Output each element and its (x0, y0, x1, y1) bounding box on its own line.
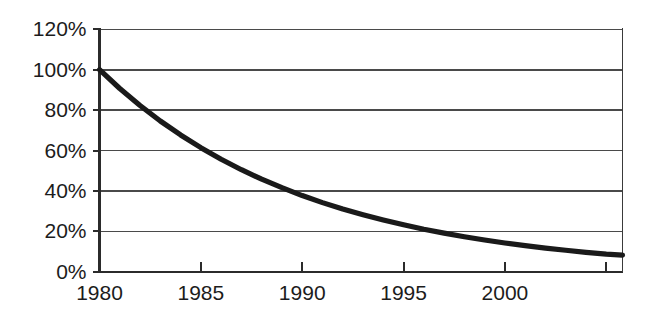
y-axis-tick-label: 0% (56, 260, 86, 283)
x-axis-tick-label: 1995 (380, 281, 427, 304)
y-axis-tick-label: 120% (33, 17, 87, 40)
y-axis-tick-labels: 0%20%40%60%80%100%120% (33, 17, 87, 282)
x-axis-tick-label: 1980 (76, 281, 123, 304)
x-axis-tick-labels: 19801985199019952000 (76, 281, 528, 304)
y-axis-tick-label: 80% (44, 98, 86, 121)
x-axis-tick-label: 1990 (279, 281, 326, 304)
chart-container: 0%20%40%60%80%100%120% 19801985199019952… (0, 0, 651, 336)
x-axis-tick-label: 2000 (482, 281, 529, 304)
y-axis-tick-label: 60% (44, 139, 86, 162)
y-axis-tick-label: 20% (44, 219, 86, 242)
data-series (100, 70, 623, 255)
series-line (100, 70, 623, 255)
gridlines (100, 29, 623, 271)
y-axis-tick-label: 40% (44, 179, 86, 202)
line-chart: 0%20%40%60%80%100%120% 19801985199019952… (0, 0, 651, 336)
x-axis-tick-label: 1985 (177, 281, 224, 304)
y-axis-tick-label: 100% (33, 58, 87, 81)
